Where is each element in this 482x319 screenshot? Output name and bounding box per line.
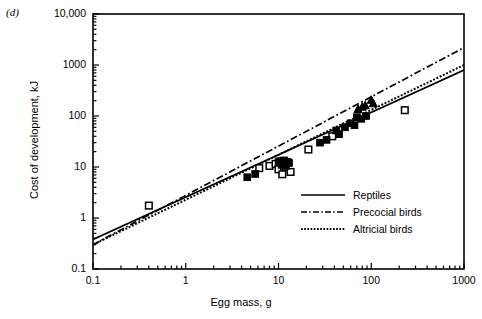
legend-item-altricial-birds: Altricial birds — [300, 220, 422, 237]
x-axis-title: Egg mass, g — [0, 296, 482, 308]
x-tick-label: 1 — [156, 274, 216, 286]
legend-label-altricial-birds: Altricial birds — [353, 223, 413, 235]
legend-label-precocial-birds: Precocial birds — [353, 206, 422, 218]
legend-key-dotted-line-icon — [300, 223, 346, 235]
legend-key-solid-line-icon — [300, 189, 346, 201]
y-axis-title: Cost of development, kJ — [28, 40, 40, 240]
legend-item-reptiles: Reptiles — [300, 186, 422, 203]
x-tick-label: 1000 — [434, 274, 482, 286]
x-tick-label: 0.1 — [63, 274, 123, 286]
x-axis-tick-labels: 0.11101001000 — [0, 0, 482, 319]
legend-item-precocial-birds: Precocial birds — [300, 203, 422, 220]
legend-key-dash-dot-line-icon — [300, 206, 346, 218]
x-tick-label: 100 — [341, 274, 401, 286]
chart-legend: Reptiles Precocial birds Altricial birds — [300, 186, 422, 237]
figure-panel-d: (d) 0.1110100100010,000 0.11101001000 Eg… — [0, 0, 482, 319]
legend-label-reptiles: Reptiles — [353, 189, 391, 201]
x-tick-label: 10 — [249, 274, 309, 286]
